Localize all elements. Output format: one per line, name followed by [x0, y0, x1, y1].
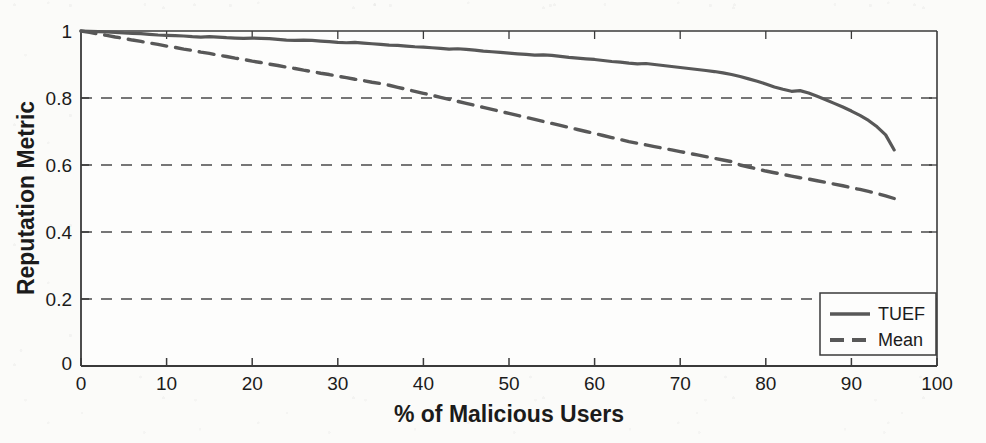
y-tick-label-0.6: 0.6 [46, 155, 72, 176]
legend[interactable]: TUEF Mean [820, 293, 936, 355]
y-tick-label-0.8: 0.8 [46, 88, 72, 109]
x-tick-labels: 0 10 20 30 40 50 60 70 80 90 100 [76, 373, 953, 394]
x-tick-label-20: 20 [242, 373, 263, 394]
y-tick-label-0.2: 0.2 [46, 289, 72, 310]
x-tick-label-70: 70 [670, 373, 691, 394]
y-tick-label-1: 1 [61, 21, 72, 42]
x-tick-label-90: 90 [841, 373, 862, 394]
y-tick-label-0: 0 [61, 353, 72, 374]
legend-label-mean: Mean [878, 330, 923, 350]
y-axis-title: Reputation Metric [13, 101, 39, 295]
plot-area-background [81, 31, 937, 366]
chart-page: 1 0.8 0.6 0.4 0.2 0 0 10 20 30 40 50 60 … [0, 0, 986, 443]
reputation-metric-line-chart: 1 0.8 0.6 0.4 0.2 0 0 10 20 30 40 50 60 … [0, 0, 986, 443]
x-tick-label-60: 60 [584, 373, 605, 394]
x-tick-label-10: 10 [156, 373, 177, 394]
x-tick-label-100: 100 [921, 373, 953, 394]
x-tick-label-80: 80 [755, 373, 776, 394]
x-tick-label-40: 40 [413, 373, 434, 394]
y-tick-label-0.4: 0.4 [46, 222, 73, 243]
x-tick-label-30: 30 [327, 373, 348, 394]
legend-label-tuef: TUEF [878, 304, 925, 324]
x-tick-label-0: 0 [76, 373, 87, 394]
x-axis-title: % of Malicious Users [394, 401, 624, 427]
y-tick-labels: 1 0.8 0.6 0.4 0.2 0 [46, 21, 73, 374]
x-tick-label-50: 50 [498, 373, 519, 394]
